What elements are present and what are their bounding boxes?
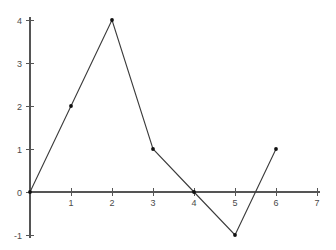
line-chart: -101234 1234567 (0, 0, 336, 250)
x-tick-label: 2 (109, 198, 114, 208)
data-point-marker (110, 18, 114, 22)
x-tick-label: 3 (150, 198, 155, 208)
data-point-marker (192, 190, 196, 194)
y-tick-label: 3 (17, 59, 22, 69)
data-point-marker (28, 190, 32, 194)
data-point-marker (274, 147, 278, 151)
data-point-marker (69, 104, 73, 108)
y-tick-label: 0 (17, 188, 22, 198)
y-tick-label: -1 (14, 231, 22, 241)
chart-background (0, 0, 336, 250)
x-tick-label: 7 (314, 198, 319, 208)
data-point-marker (233, 233, 237, 237)
y-tick-label: 1 (17, 145, 22, 155)
x-tick-label: 1 (68, 198, 73, 208)
data-point-marker (151, 147, 155, 151)
y-tick-label: 4 (17, 16, 22, 26)
x-tick-label: 5 (232, 198, 237, 208)
x-tick-label: 6 (273, 198, 278, 208)
chart-canvas: -101234 1234567 (0, 0, 336, 250)
y-tick-label: 2 (17, 102, 22, 112)
x-tick-label: 4 (191, 198, 196, 208)
